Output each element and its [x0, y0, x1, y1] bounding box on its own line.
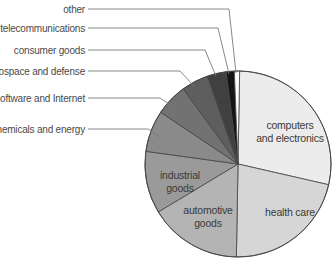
slice-label: aerospace and defense — [0, 66, 86, 77]
slice-label: software and Internet — [0, 93, 85, 104]
leader-line — [88, 28, 229, 74]
leader-line — [88, 71, 194, 86]
leader-line — [88, 50, 216, 76]
slice-label: telecommunications — [0, 23, 85, 34]
pie-slices — [145, 71, 331, 257]
slice-label: health care — [265, 206, 315, 218]
pie-chart: computersand electronicshealth careautom… — [0, 0, 332, 262]
leader-line — [88, 98, 172, 106]
slice-label: consumer goods — [14, 45, 85, 56]
slice-label: other — [63, 4, 86, 15]
slice-label: chemicals and energy — [0, 124, 85, 135]
leader-line — [88, 9, 236, 73]
